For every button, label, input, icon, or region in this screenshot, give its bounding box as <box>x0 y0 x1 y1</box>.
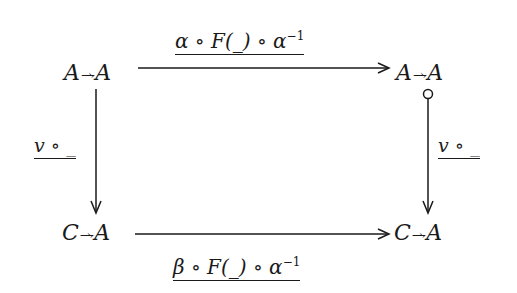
relation-icon: ⇀⇁ <box>81 68 94 82</box>
relation-icon: ⇀⇁ <box>412 228 425 242</box>
bottom-edge-label: β ∘ F(_) ∘ α−1 <box>173 256 300 281</box>
superscript: −1 <box>283 255 301 269</box>
node-top-left: A⇀⇁A <box>64 62 111 84</box>
node-object: A <box>95 60 111 85</box>
node-object: A <box>426 220 442 245</box>
left-arrow <box>91 89 101 213</box>
top-edge-label: α ∘ F(_) ∘ α−1 <box>175 30 304 55</box>
compose-op: ∘ <box>189 29 212 53</box>
left-edge-label: v ∘ _ <box>34 136 76 159</box>
right-arrow <box>423 90 433 214</box>
compose-op: ∘ <box>251 29 274 53</box>
node-object: C <box>394 220 411 245</box>
top-arrow <box>138 63 389 73</box>
label-part: α <box>175 29 189 53</box>
relation-icon: ⇀⇁ <box>413 68 426 82</box>
compose-op: ∘ <box>185 255 208 279</box>
compose-op: ∘ <box>247 255 270 279</box>
node-top-right: A⇀⇁A <box>396 62 443 84</box>
node-bottom-left: C⇀⇁A <box>62 222 110 244</box>
node-object: A <box>94 220 110 245</box>
node-object: A <box>64 60 80 85</box>
node-object: A <box>396 60 412 85</box>
label-part: ∘ _ <box>45 134 76 156</box>
node-bottom-right: C⇀⇁A <box>394 222 442 244</box>
label-part: α <box>273 29 287 53</box>
right-edge-label: v ∘ _ <box>438 136 480 159</box>
label-part: F(_) <box>207 255 246 279</box>
label-part: ∘ _ <box>449 134 480 156</box>
circle-tail-icon <box>424 90 433 99</box>
label-part: α <box>269 255 283 279</box>
node-object: C <box>62 220 79 245</box>
bottom-arrow <box>135 229 389 239</box>
label-part: v <box>438 134 449 156</box>
label-part: v <box>34 134 45 156</box>
superscript: −1 <box>287 29 305 43</box>
label-part: β <box>173 255 185 279</box>
relation-icon: ⇀⇁ <box>80 228 93 242</box>
node-object: A <box>427 60 443 85</box>
label-part: F(_) <box>211 29 250 53</box>
